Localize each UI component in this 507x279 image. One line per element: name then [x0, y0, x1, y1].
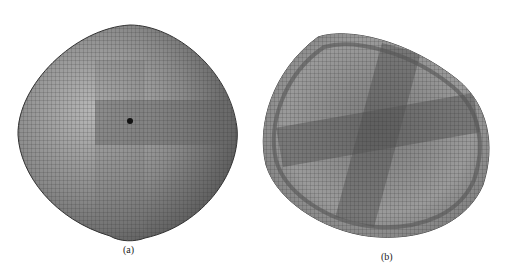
panel-b [258, 25, 498, 250]
center-node-marker [127, 118, 133, 124]
mesh-shell-a-image [15, 20, 245, 245]
mesh-shell-b-image [258, 25, 498, 250]
panel-a-label: (a) [123, 244, 134, 255]
panel-b-label: (b) [381, 251, 393, 262]
panel-a [15, 20, 245, 245]
